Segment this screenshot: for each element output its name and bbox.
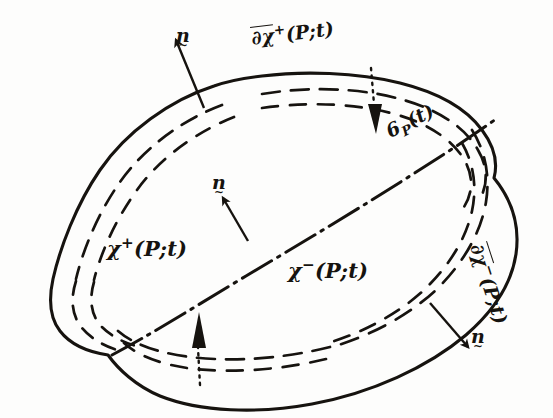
normal-undermark: ~ xyxy=(212,187,226,199)
normal-arrow-bottom-right xyxy=(430,303,468,347)
normal-arrow-interface-bottom xyxy=(192,312,206,385)
normal-label-top-left: n ~ xyxy=(176,26,190,52)
region-minus-superscript: − xyxy=(302,256,315,274)
region-minus-base: χ xyxy=(288,258,302,283)
diagram-canvas xyxy=(0,0,553,418)
region-label-minus: χ−(P;t) xyxy=(288,258,368,281)
region-plus-superscript: + xyxy=(121,234,134,252)
region-plus-base: χ xyxy=(107,236,121,261)
normal-undermark: ~ xyxy=(176,40,190,52)
normal-undermark: ~ xyxy=(471,341,485,353)
region-minus-argument: (P;t) xyxy=(315,258,368,283)
normal-arrow-middle xyxy=(223,198,248,241)
normal-label-middle: n ~ xyxy=(212,173,226,199)
boundary-plus-barred: ∂χ xyxy=(250,25,275,49)
normal-label-bottom-right: n ~ xyxy=(471,327,485,353)
figure-container: n ~ n ~ n ~ 6P(t) ∂χ+(P;t) ∂χ−(P;t) χ+(P… xyxy=(0,0,553,418)
region-label-plus: χ+(P;t) xyxy=(107,236,187,259)
region-plus-argument: (P;t) xyxy=(134,236,187,261)
